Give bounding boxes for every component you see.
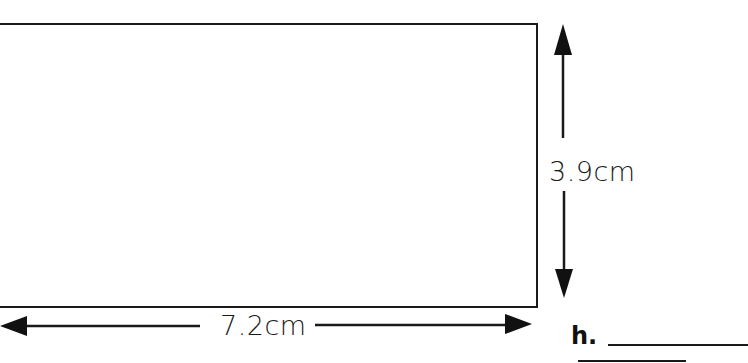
problem-label: h. [571,322,597,350]
width-label: 7.2cm [212,312,315,339]
answer-blank[interactable] [608,344,748,346]
height-label: 3.9cm [549,152,636,191]
answer-underline [578,360,686,362]
